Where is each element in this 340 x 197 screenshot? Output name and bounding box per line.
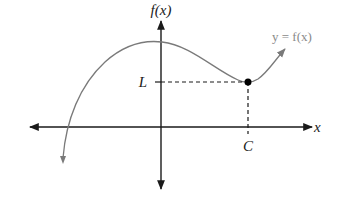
l-label: L: [138, 74, 147, 90]
function-diagram: f(x) x y = f(x) L C: [0, 0, 340, 197]
x-axis-label: x: [313, 119, 321, 135]
c-label: C: [243, 138, 254, 154]
y-axis-label: f(x): [151, 2, 172, 19]
curve-label: y = f(x): [272, 29, 312, 44]
minimum-point: [245, 79, 252, 86]
curve-start-arrow-icon: [60, 156, 66, 164]
